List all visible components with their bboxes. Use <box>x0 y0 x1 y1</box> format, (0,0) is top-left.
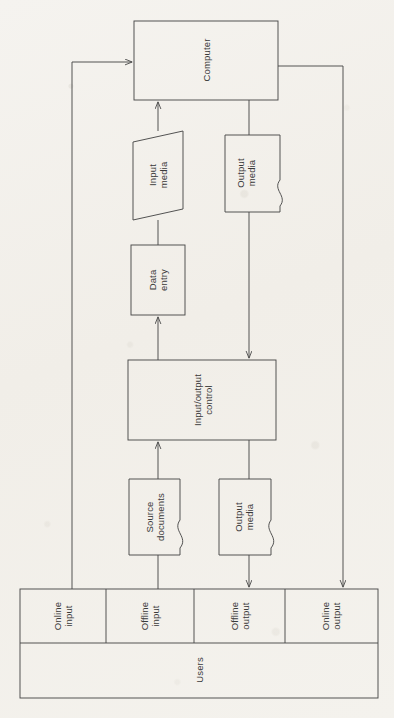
diagram-vector-layer <box>0 0 394 718</box>
connector-online-input-to-computer <box>72 62 132 589</box>
flowchart-diagram: Computer Input media Output media Data e… <box>0 0 394 718</box>
node-output-media-top-shape <box>225 135 282 212</box>
node-computer-shape <box>134 21 278 100</box>
connector-computer-to-online-output <box>278 66 343 587</box>
node-source-documents-shape <box>129 479 183 555</box>
node-data-entry-shape <box>131 245 185 315</box>
node-users-shape <box>20 589 378 698</box>
node-output-media-bottom-shape <box>219 479 274 555</box>
node-io-control-shape <box>128 360 276 440</box>
node-input-media-shape <box>133 131 183 220</box>
